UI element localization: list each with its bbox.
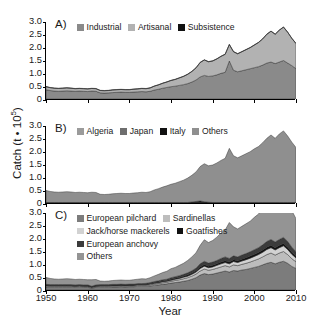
y-tick-label: 2.5	[29, 134, 42, 143]
x-tick-label: 1980	[161, 294, 182, 303]
x-tick-mark	[46, 203, 47, 207]
panel-letter: B)	[55, 122, 67, 134]
legend-row: Jack/horse mackerelsGoatfishes	[77, 227, 234, 236]
panel-b: 00.51.01.52.02.53.0B)AlgeriaJapanItalyOt…	[45, 126, 295, 204]
panel-c: 00.51.01.52.02.53.0195019601970198019902…	[45, 213, 295, 291]
plot-area-b: 00.51.01.52.02.53.0B)AlgeriaJapanItalyOt…	[45, 126, 295, 204]
legend-item: Jack/horse mackerels	[77, 227, 170, 236]
y-tick-mark	[43, 139, 47, 140]
legend-swatch-icon	[77, 24, 84, 31]
legend-swatch-icon	[128, 24, 135, 31]
x-tick-mark	[254, 203, 255, 207]
legend-swatch-icon	[77, 215, 84, 222]
legend-label: Italy	[170, 127, 186, 136]
plot-area-c: 00.51.01.52.02.53.0195019601970198019902…	[45, 213, 295, 291]
y-tick-mark	[43, 35, 47, 36]
x-tick-mark	[296, 203, 297, 207]
legend-label: Japan	[130, 127, 153, 136]
y-tick-mark	[43, 165, 47, 166]
x-tick-mark	[171, 203, 172, 207]
x-tick-mark	[171, 99, 172, 103]
y-tick-mark	[43, 152, 47, 153]
y-tick-label: 2.0	[29, 43, 42, 52]
y-axis-label-prefix: Catch (t • 10	[11, 115, 23, 178]
y-tick-label: 1.5	[29, 56, 42, 65]
legend-item: European anchovy	[77, 240, 158, 249]
legend-swatch-icon	[77, 241, 84, 248]
y-tick-mark	[43, 213, 47, 214]
legend-row: European pilchardSardinellas	[77, 214, 234, 223]
y-tick-mark	[43, 239, 47, 240]
legend-row: European anchovy	[77, 240, 234, 249]
y-tick-mark	[43, 226, 47, 227]
x-tick-mark	[296, 99, 297, 103]
legend-item: Algeria	[77, 127, 113, 136]
legend-item: Italy	[160, 127, 185, 136]
y-tick-mark	[43, 74, 47, 75]
y-tick-label: 0	[37, 95, 42, 104]
y-tick-mark	[43, 22, 47, 23]
plot-area-a: 00.51.01.52.02.53.0A)IndustrialArtisanal…	[45, 22, 295, 100]
x-tick-label: 2010	[286, 294, 307, 303]
legend-item: Others	[192, 127, 227, 136]
x-tick-label: 1990	[202, 294, 223, 303]
legend-swatch-icon	[192, 128, 199, 135]
legend-swatch-icon	[77, 228, 84, 235]
legend-label: European anchovy	[87, 240, 159, 249]
y-tick-label: 1.5	[29, 160, 42, 169]
y-tick-label: 2.0	[29, 147, 42, 156]
x-tick-label: 1960	[77, 294, 98, 303]
y-tick-mark	[43, 61, 47, 62]
x-tick-mark	[88, 99, 89, 103]
legend-swatch-icon	[77, 253, 84, 260]
x-tick-mark	[46, 99, 47, 103]
legend-label: Others	[87, 252, 113, 261]
y-tick-label: 2.0	[29, 234, 42, 243]
legend-label: Subsistence	[188, 23, 235, 32]
legend: European pilchardSardinellasJack/horse m…	[77, 214, 234, 265]
legend-swatch-icon	[163, 215, 170, 222]
y-tick-label: 0.5	[29, 273, 42, 282]
legend-label: Algeria	[87, 127, 114, 136]
y-tick-label: 3.0	[29, 121, 42, 130]
legend: IndustrialArtisanalSubsistence	[77, 23, 242, 36]
y-tick-label: 1.5	[29, 247, 42, 256]
legend-swatch-icon	[77, 128, 84, 135]
y-tick-mark	[43, 252, 47, 253]
legend-item: European pilchard	[77, 214, 156, 223]
y-tick-label: 2.5	[29, 221, 42, 230]
legend-row: AlgeriaJapanItalyOthers	[77, 127, 235, 136]
y-axis-label-suffix: )	[11, 107, 23, 111]
y-tick-mark	[43, 278, 47, 279]
area-series	[46, 131, 296, 203]
legend-row: IndustrialArtisanalSubsistence	[77, 23, 242, 32]
legend-item: Others	[77, 252, 112, 261]
panel-letter: A)	[55, 18, 67, 30]
legend-item: Industrial	[77, 23, 121, 32]
y-axis-label: Catch (t • 105)	[9, 93, 29, 193]
x-tick-mark	[88, 203, 89, 207]
y-tick-mark	[43, 191, 47, 192]
legend-item: Goatfishes	[177, 227, 228, 236]
y-tick-mark	[43, 265, 47, 266]
y-tick-mark	[43, 126, 47, 127]
legend-label: Artisanal	[138, 23, 171, 32]
legend-label: European pilchard	[87, 214, 157, 223]
legend-swatch-icon	[120, 128, 127, 135]
legend-swatch-icon	[160, 128, 167, 135]
legend-item: Sardinellas	[163, 214, 215, 223]
x-tick-mark	[213, 99, 214, 103]
legend-swatch-icon	[178, 24, 185, 31]
legend-item: Artisanal	[128, 23, 171, 32]
legend-row: Others	[77, 252, 234, 261]
legend-label: Jack/horse mackerels	[87, 227, 170, 236]
y-tick-label: 3.0	[29, 17, 42, 26]
figure-root: Catch (t • 105) Year 00.51.01.52.02.53.0…	[0, 0, 317, 327]
legend-swatch-icon	[177, 228, 184, 235]
x-axis-label: Year	[45, 305, 295, 317]
y-axis-label-exponent: 5	[9, 111, 18, 115]
legend-label: Others	[202, 127, 228, 136]
legend-item: Subsistence	[178, 23, 234, 32]
x-tick-mark	[129, 99, 130, 103]
y-tick-label: 1.0	[29, 173, 42, 182]
